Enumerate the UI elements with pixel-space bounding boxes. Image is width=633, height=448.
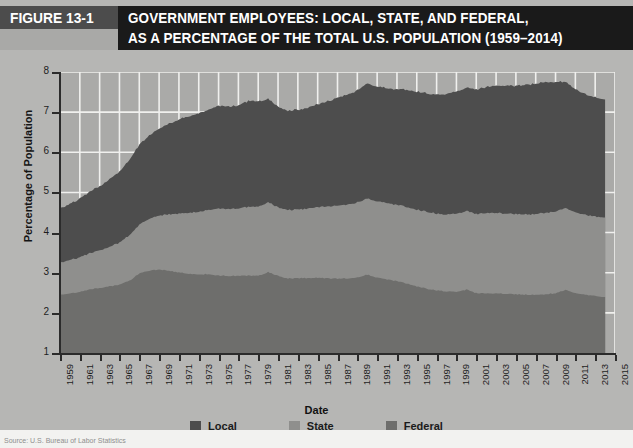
- x-axis-tick: [139, 355, 141, 361]
- x-axis-tick: [575, 355, 577, 361]
- x-axis-tick-label: 1997: [441, 364, 452, 385]
- figure-title-block: GOVERNMENT EMPLOYEES: LOCAL, STATE, AND …: [118, 6, 633, 50]
- x-axis-tick: [397, 355, 399, 361]
- y-axis-tick-label: 3: [3, 266, 49, 277]
- x-axis-tick: [456, 355, 458, 361]
- x-axis-tick-label: 1973: [203, 364, 214, 385]
- y-axis-tick-label: 7: [3, 105, 49, 116]
- x-axis-tick: [615, 355, 617, 361]
- figure-title-line-2: AS A PERCENTAGE OF THE TOTAL U.S. POPULA…: [128, 28, 590, 48]
- x-axis-tick-label: 1975: [223, 364, 234, 385]
- x-axis-tick-label: 2013: [599, 364, 610, 385]
- x-axis-tick: [119, 355, 121, 361]
- x-axis-tick: [278, 355, 280, 361]
- x-axis-tick-label: 2003: [500, 364, 511, 385]
- x-axis-tick: [357, 355, 359, 361]
- x-axis-tick: [100, 355, 102, 361]
- figure-number-label: FIGURE 13-1: [10, 9, 94, 26]
- figure-header: FIGURE 13-1 GOVERNMENT EMPLOYEES: LOCAL,…: [0, 6, 633, 50]
- y-axis-tick: [52, 72, 59, 74]
- figure-number-under-strip: [0, 29, 118, 50]
- x-axis-tick-label: 1985: [322, 364, 333, 385]
- x-axis-tick: [476, 355, 478, 361]
- figure-page: FIGURE 13-1 GOVERNMENT EMPLOYEES: LOCAL,…: [0, 0, 633, 448]
- x-axis-tick-label: 1971: [183, 364, 194, 385]
- y-axis-line: [59, 72, 61, 354]
- x-axis-tick: [437, 355, 439, 361]
- y-axis-tick: [52, 192, 59, 194]
- x-axis-tick-label: 1963: [104, 364, 115, 385]
- x-axis-tick-label: 1967: [143, 364, 154, 385]
- x-axis-tick: [516, 355, 518, 361]
- y-axis-tick: [52, 353, 59, 355]
- x-axis-tick: [258, 355, 260, 361]
- x-axis-tick-label: 2009: [560, 364, 571, 385]
- x-axis-tick-label: 1981: [282, 364, 293, 385]
- x-axis-tick: [595, 355, 597, 361]
- chart-container: Percentage of Population 12345678 195919…: [0, 52, 633, 430]
- x-axis-tick: [417, 355, 419, 361]
- x-axis-tick-label: 1989: [361, 364, 372, 385]
- y-axis-tick-label: 6: [3, 145, 49, 156]
- x-axis-tick-label: 1995: [421, 364, 432, 385]
- x-axis-tick: [80, 355, 82, 361]
- x-axis-tick: [536, 355, 538, 361]
- x-axis-tick: [219, 355, 221, 361]
- y-axis-tick: [52, 233, 59, 235]
- y-axis-tick-label: 4: [3, 226, 49, 237]
- figure-source-caption: Source: U.S. Bureau of Labor Statistics: [4, 437, 126, 444]
- x-axis-tick: [179, 355, 181, 361]
- plot-area: [60, 72, 615, 353]
- y-axis-tick: [52, 152, 59, 154]
- y-axis-tick-label: 5: [3, 185, 49, 196]
- y-axis-labels: 12345678: [0, 52, 49, 372]
- x-axis-tick-label: 1959: [64, 364, 75, 385]
- x-axis-tick: [60, 355, 62, 361]
- x-axis-tick: [159, 355, 161, 361]
- x-axis-tick-label: 2007: [540, 364, 551, 385]
- y-axis-tick-label: 2: [3, 306, 49, 317]
- figure-title-line-1: GOVERNMENT EMPLOYEES: LOCAL, STATE, AND …: [128, 8, 590, 28]
- y-axis-tick-label: 8: [3, 65, 49, 76]
- y-axis-tick: [52, 313, 59, 315]
- x-axis-tick-label: 1961: [84, 364, 95, 385]
- y-axis-tick: [52, 273, 59, 275]
- x-axis-tick-label: 1991: [381, 364, 392, 385]
- x-axis-tick-label: 1969: [163, 364, 174, 385]
- x-axis-tick-label: 2015: [619, 364, 630, 385]
- x-axis-tick-label: 1965: [123, 364, 134, 385]
- x-axis-tick-label: 1983: [302, 364, 313, 385]
- x-axis-tick: [199, 355, 201, 361]
- x-axis-tick-label: 1977: [242, 364, 253, 385]
- x-axis-tick-label: 1979: [262, 364, 273, 385]
- x-axis-tick-label: 1987: [342, 364, 353, 385]
- x-axis-tick: [377, 355, 379, 361]
- x-axis-tick-label: 1993: [401, 364, 412, 385]
- x-axis-tick: [298, 355, 300, 361]
- figure-number-block: FIGURE 13-1: [0, 6, 118, 50]
- x-axis-tick: [338, 355, 340, 361]
- stacked-area-svg: [60, 72, 615, 353]
- x-axis-tick-label: 1999: [460, 364, 471, 385]
- x-axis-tick: [496, 355, 498, 361]
- y-axis-tick-label: 1: [3, 346, 49, 357]
- x-axis-tick-label: 2001: [480, 364, 491, 385]
- x-axis-tick: [238, 355, 240, 361]
- x-axis-tick: [318, 355, 320, 361]
- x-axis-tick-label: 2011: [579, 364, 590, 384]
- x-axis-title: Date: [0, 404, 633, 416]
- x-axis-tick: [556, 355, 558, 361]
- y-axis-tick: [52, 112, 59, 114]
- x-axis-tick-label: 2005: [520, 364, 531, 385]
